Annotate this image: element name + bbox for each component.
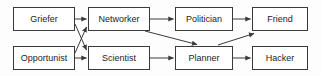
node-networker[interactable]: Networker — [88, 7, 150, 31]
node-label-politician: Politician — [186, 14, 222, 24]
node-planner[interactable]: Planner — [175, 46, 233, 70]
node-label-friend: Friend — [267, 14, 293, 24]
diagram-canvas: Griefer Networker Politician Friend Oppo… — [0, 0, 321, 76]
edge-networker-planner — [145, 31, 197, 45]
node-hacker[interactable]: Hacker — [252, 46, 308, 70]
edge-griefer-scientist — [75, 24, 87, 50]
edge-opportunist-networker — [75, 27, 87, 53]
node-label-networker: Networker — [98, 14, 139, 24]
node-friend[interactable]: Friend — [252, 7, 308, 31]
node-politician[interactable]: Politician — [175, 7, 233, 31]
node-label-opportunist: Opportunist — [21, 53, 68, 63]
node-label-griefer: Griefer — [30, 14, 58, 24]
edge-planner-friend — [218, 34, 254, 46]
node-griefer[interactable]: Griefer — [13, 7, 75, 31]
node-scientist[interactable]: Scientist — [88, 46, 150, 70]
node-label-hacker: Hacker — [266, 53, 295, 63]
node-opportunist[interactable]: Opportunist — [13, 46, 75, 70]
node-label-scientist: Scientist — [102, 53, 136, 63]
node-label-planner: Planner — [188, 53, 219, 63]
